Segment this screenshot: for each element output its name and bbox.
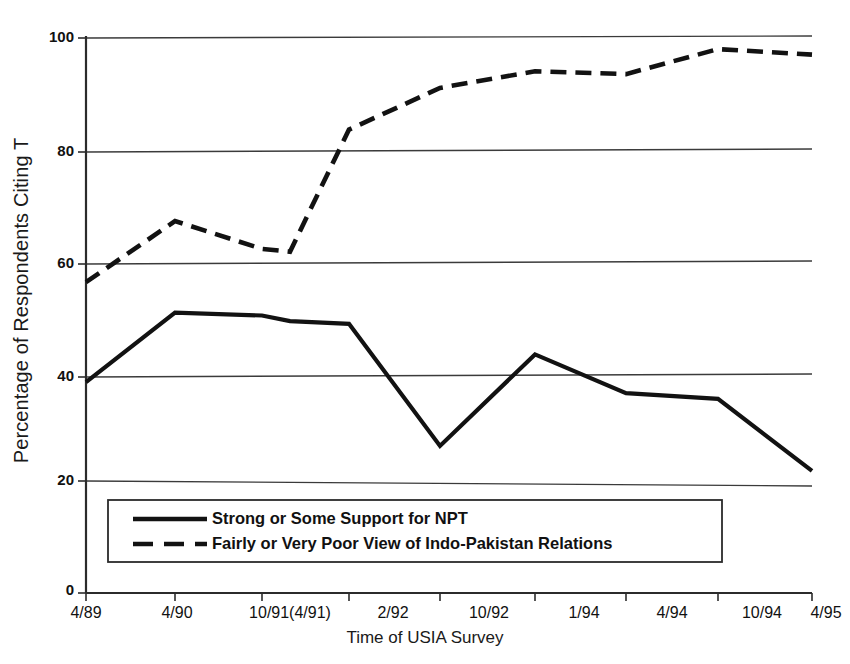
gridlines — [86, 36, 812, 486]
x-tick-label-0: 4/89 — [70, 604, 101, 621]
series-line-indo-pak-relations — [86, 49, 812, 282]
gridline-80 — [86, 149, 812, 152]
legend: Strong or Some Support for NPT Fairly or… — [108, 500, 722, 562]
y-tick-label-100: 100 — [49, 28, 74, 45]
x-tick-label-2: 10/91(4/91) — [249, 604, 331, 621]
y-tick-label-0: 0 — [66, 581, 74, 598]
x-tick-label-1: 4/90 — [161, 604, 192, 621]
chart-figure: Percentage of Respondents Citing T 10 — [0, 0, 850, 664]
gridline-60 — [86, 261, 812, 264]
x-tick-label-5: 1/94 — [568, 604, 599, 621]
x-tick-label-3: 2/92 — [377, 604, 408, 621]
y-tick-label-20: 20 — [57, 471, 74, 488]
x-axis-title: Time of USIA Survey — [0, 628, 850, 648]
x-tick-labels: 4/89 4/90 10/91(4/91) 2/92 10/92 1/94 4/… — [70, 604, 841, 621]
x-tick-label-6: 4/94 — [656, 604, 687, 621]
legend-label-1: Fairly or Very Poor View of Indo-Pakista… — [212, 534, 612, 552]
series-line-npt-support — [86, 313, 812, 471]
y-tick-label-80: 80 — [57, 142, 74, 159]
legend-label-0: Strong or Some Support for NPT — [212, 509, 468, 527]
gridline-40 — [86, 374, 812, 377]
y-tickmarks — [78, 38, 86, 593]
x-tick-label-7: 10/94 — [742, 604, 782, 621]
gridline-20 — [86, 481, 812, 486]
y-tick-labels: 100 80 60 40 20 0 — [49, 28, 74, 598]
y-tick-label-40: 40 — [57, 367, 74, 384]
gridline-100 — [86, 36, 812, 38]
x-tickmarks — [86, 593, 812, 601]
y-tick-label-60: 60 — [57, 254, 74, 271]
x-tick-label-4: 10/92 — [469, 604, 509, 621]
chart-plot-area: 100 80 60 40 20 0 4/89 4/90 10/91(4/91) … — [0, 0, 850, 664]
x-tick-label-8: 4/95 — [810, 604, 841, 621]
x-axis-title-label: Time of USIA Survey — [346, 628, 503, 647]
